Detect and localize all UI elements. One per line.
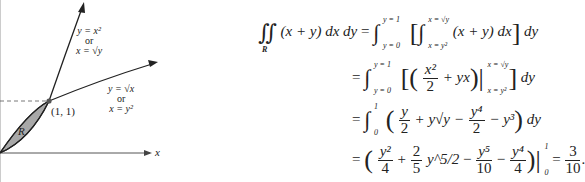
line3-differential: dy (527, 111, 541, 127)
line4-t4-den: 4 (510, 161, 526, 177)
inner-upper: x = √y (428, 16, 449, 24)
outer-upper: y = 1 (383, 16, 400, 24)
intersection-point (46, 98, 51, 103)
line4-eval-upper: 1 (544, 143, 548, 151)
line2-eval-lower: x = y² (488, 87, 509, 95)
curve-upper-label: y = x² or x = √y (76, 26, 102, 56)
line3-upper: 1 (374, 103, 378, 111)
inner-lower: x = y² (428, 42, 449, 50)
line2-frac-num: x² (423, 62, 438, 79)
curve-y-x-squared (0, 8, 82, 153)
lhs-integrand: (x + y) dx dy (280, 23, 357, 39)
curve-lower-label: y = √x or x = y² (108, 84, 134, 114)
line3-t3-den: 2 (469, 121, 485, 137)
curve-upper-arrow-icon (78, 2, 85, 13)
outer-limits: y = 1 y = 0 (383, 25, 400, 41)
inner-integral-sign: ∫ (418, 20, 424, 45)
curve-upper-eq2: x = √y (76, 46, 102, 56)
region-subscript: R (262, 46, 267, 54)
line2-lower: y = 0 (374, 87, 391, 95)
line3-t3-num: y⁴ (469, 104, 485, 121)
line4-t2-den: 5 (411, 161, 423, 177)
curve-lower-arrow-icon (148, 60, 158, 67)
inner-limits: x = √y x = y² (428, 25, 449, 41)
line4-eval-lower: 0 (544, 169, 548, 177)
line2-differential: dy (521, 69, 535, 85)
result-den: 10 (565, 161, 580, 177)
line3-t1-den: 2 (399, 121, 410, 137)
line3-lower: 0 (374, 129, 378, 137)
x-axis-arrow-icon (144, 150, 152, 156)
double-integral-sign: ∬ (258, 20, 277, 45)
line2-upper: y = 1 (374, 61, 391, 69)
point-label: (1, 1) (51, 106, 75, 117)
line2-frac-den: 2 (423, 79, 438, 95)
line3-t1-num: y (399, 104, 410, 121)
line2-plus-term: + yx (443, 69, 470, 85)
line3-t2: + y√y − (415, 111, 464, 127)
region-label: R (18, 126, 25, 137)
region-diagram: y = x² or x = √y y = √x or x = y² (1, 1)… (0, 0, 180, 182)
curve-lower-eq2: x = y² (108, 104, 134, 114)
line4-t1-den: 4 (378, 161, 393, 177)
outer-lower: y = 0 (383, 42, 400, 50)
line4-t4-num: y⁴ (510, 144, 526, 161)
line4-t1-num: y² (378, 144, 393, 161)
x-axis-label: x (155, 147, 160, 158)
line4-t2-num: 2 (411, 144, 423, 161)
equation-line-2: = ∫ y = 1 y = 0 [( x²2 + yx)| x = √y x =… (352, 62, 535, 95)
line4-t3-num: y⁵ (476, 144, 492, 161)
equation-line-1: ∬ R (x + y) dx dy = ∫ y = 1 y = 0 [∫ x =… (258, 20, 538, 46)
inner-integrand: (x + y) dx (453, 23, 512, 39)
outer-integral-sign: ∫ (373, 20, 379, 45)
result-num: 3 (565, 144, 580, 161)
equation-line-3: = ∫ 1 0 ( y2 + y√y − y⁴2 − y³) dy (352, 104, 541, 137)
line3-t4: − y³ (489, 111, 514, 127)
line4-t3-den: 10 (476, 161, 492, 177)
equation-line-4: = ( y²4 + 25 y^5/2 − y⁵10 − y⁴4)| 1 0 = … (352, 144, 585, 177)
line4-t2-pow: y^5/2 (427, 151, 459, 167)
line2-eval-upper: x = √y (488, 61, 509, 69)
outer-differential: dy (524, 23, 538, 39)
